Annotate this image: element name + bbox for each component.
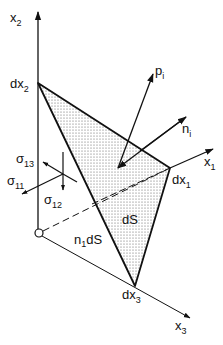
sigma13-arrow xyxy=(43,162,63,174)
sigma12-label: σ12 xyxy=(44,192,62,210)
n1dS-label: n1dS xyxy=(74,232,102,249)
sigma11-arrow xyxy=(22,174,63,194)
dx1-label: dx1 xyxy=(172,172,191,190)
x1-axis-label: x1 xyxy=(204,154,216,172)
sigma11-label: σ11 xyxy=(7,173,24,191)
sigma13-label: σ13 xyxy=(16,151,34,169)
dS-label: dS xyxy=(122,212,138,227)
n-vector-head xyxy=(140,117,186,151)
tetrahedron-diagram: x2 dx2 pi ni x1 dx1 dS n1dS dx3 x3 σ13 σ… xyxy=(0,0,223,345)
x3-axis-label: x3 xyxy=(175,318,187,336)
x2-axis-label: x2 xyxy=(10,10,22,28)
p-label: pi xyxy=(155,63,164,81)
dx2-label: dx2 xyxy=(10,76,29,94)
sigma13-tail xyxy=(63,174,77,182)
face-dS xyxy=(38,83,170,286)
origin-point xyxy=(35,229,43,237)
n-label: ni xyxy=(182,121,191,139)
